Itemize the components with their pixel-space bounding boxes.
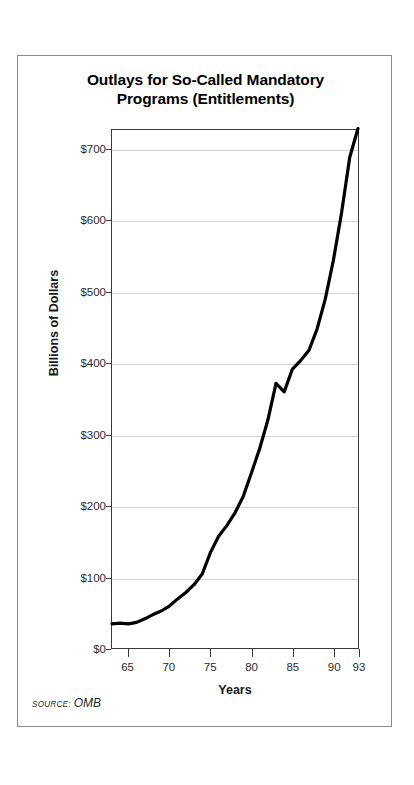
series-polyline bbox=[112, 129, 358, 624]
x-axis-title: Years bbox=[111, 683, 359, 697]
x-tick-mark-85 bbox=[293, 649, 294, 657]
y-tick-label-100: $100 bbox=[62, 572, 106, 584]
source-note: SOURCE: OMB bbox=[32, 696, 101, 710]
x-tick-label-80: 80 bbox=[237, 661, 267, 673]
x-tick-mark-75 bbox=[210, 649, 211, 657]
x-tick-label-75: 75 bbox=[195, 661, 225, 673]
x-tick-label-93: 93 bbox=[344, 661, 374, 673]
x-axis-tick-labels: 65707580859093 bbox=[111, 649, 359, 683]
y-axis-tick-labels: $0$100$200$300$400$500$600$700 bbox=[58, 129, 106, 649]
x-tick-label-65: 65 bbox=[113, 661, 143, 673]
x-tick-mark-90 bbox=[334, 649, 335, 657]
chart-title: Outlays for So-Called Mandatory Programs… bbox=[38, 70, 373, 109]
y-tick-label-300: $300 bbox=[62, 429, 106, 441]
x-tick-mark-93 bbox=[359, 649, 360, 657]
figure-frame: Outlays for So-Called Mandatory Programs… bbox=[17, 55, 392, 727]
chart-title-line-2: Programs (Entitlements) bbox=[38, 89, 373, 108]
data-line-series bbox=[112, 130, 358, 648]
x-tick-mark-65 bbox=[128, 649, 129, 657]
source-kicker: SOURCE: bbox=[32, 700, 71, 709]
y-tick-label-200: $200 bbox=[62, 500, 106, 512]
y-tick-label-600: $600 bbox=[62, 214, 106, 226]
y-tick-label-500: $500 bbox=[62, 286, 106, 298]
y-tick-label-0: $0 bbox=[62, 643, 106, 655]
x-tick-label-85: 85 bbox=[278, 661, 308, 673]
plot-area bbox=[111, 129, 359, 649]
y-tick-label-400: $400 bbox=[62, 357, 106, 369]
source-value: OMB bbox=[74, 696, 101, 710]
x-tick-mark-70 bbox=[169, 649, 170, 657]
y-tick-label-700: $700 bbox=[62, 143, 106, 155]
x-tick-label-70: 70 bbox=[154, 661, 184, 673]
x-tick-mark-80 bbox=[252, 649, 253, 657]
chart-title-line-1: Outlays for So-Called Mandatory bbox=[38, 70, 373, 89]
